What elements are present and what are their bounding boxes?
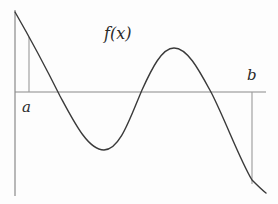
right-bound-label: b [247,68,257,83]
function-curve [15,12,266,193]
left-bound-label: a [22,100,31,115]
function-label: f(x) [104,26,131,42]
function-graph-figure: f(x) a b [0,0,278,204]
graph-svg [0,0,278,204]
